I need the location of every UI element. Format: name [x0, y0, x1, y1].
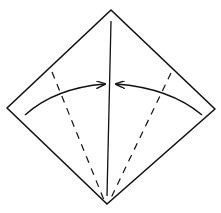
origami-diagram	[0, 0, 221, 213]
